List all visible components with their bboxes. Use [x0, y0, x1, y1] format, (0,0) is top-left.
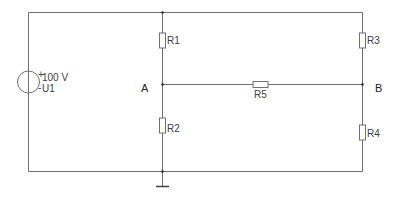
source-value-label: 100 V: [42, 72, 68, 83]
resistor-label: R4: [367, 128, 380, 139]
source-name-label: U1: [42, 83, 55, 94]
resistor-label: R3: [367, 35, 380, 46]
resistor-r5: R5: [253, 82, 268, 101]
resistor-r4: R4: [360, 125, 381, 140]
junction-dot: [361, 83, 364, 86]
resistor-label: R2: [167, 123, 180, 134]
node-b-label: B: [375, 82, 382, 94]
resistor-r1: R1: [160, 33, 181, 48]
resistor-r2: R2: [160, 118, 181, 134]
resistor-icon: [253, 82, 268, 88]
junction-dot: [161, 11, 164, 14]
resistor-icon: [160, 33, 166, 48]
resistor-icon: [360, 125, 366, 140]
circuit-schematic: + 100 V - U1 R1 R2 R3 R4 R5 A B: [0, 0, 401, 201]
resistor-label: R5: [254, 89, 267, 100]
resistor-label: R1: [167, 35, 180, 46]
resistor-icon: [360, 33, 366, 48]
voltage-source-u1: + 100 V - U1: [18, 69, 69, 94]
node-a-label: A: [141, 82, 149, 94]
wires: [29, 13, 363, 187]
resistor-icon: [160, 118, 166, 133]
resistor-r3: R3: [360, 33, 381, 48]
minus-sign: -: [38, 82, 41, 93]
junction-dot: [161, 83, 164, 86]
junction-dot: [161, 170, 164, 173]
